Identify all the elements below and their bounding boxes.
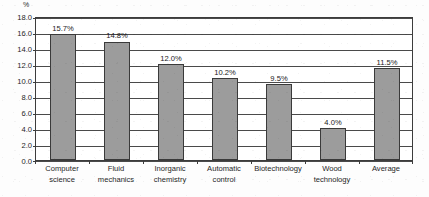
x-category-label: Inorganicchemistry bbox=[143, 164, 197, 185]
bar[interactable] bbox=[104, 42, 130, 160]
x-category-label: Computerscience bbox=[35, 164, 89, 185]
y-axis-tick-labels: 0.02.04.06.08.010.012.014.016.018.0 bbox=[6, 17, 32, 161]
x-category-label-line: chemistry bbox=[143, 175, 197, 186]
x-axis-category-labels: ComputerscienceFluidmechanicsInorganicch… bbox=[35, 164, 413, 196]
y-tick-label: 12.0 bbox=[6, 61, 32, 70]
x-category-label: Fluidmechanics bbox=[89, 164, 143, 185]
bar[interactable] bbox=[374, 68, 400, 160]
x-category-label-line: Computer bbox=[35, 164, 89, 175]
y-tick-label: 10.0 bbox=[6, 77, 32, 86]
bar[interactable] bbox=[320, 128, 346, 160]
x-category-label-line: control bbox=[197, 175, 251, 186]
x-category-label-line: Fluid bbox=[89, 164, 143, 175]
bars-layer: 15.7%14.8%12.0%10.2%9.5%4.0%11.5% bbox=[36, 18, 412, 160]
x-category-label-line: Average bbox=[359, 164, 413, 175]
y-tick-label: 6.0 bbox=[6, 109, 32, 118]
x-category-label-line: Automatic bbox=[197, 164, 251, 175]
y-tick-label: 14.0 bbox=[6, 45, 32, 54]
bar-slot: 11.5% bbox=[360, 18, 414, 160]
bar[interactable] bbox=[212, 78, 238, 160]
bar-value-label: 15.7% bbox=[52, 24, 74, 33]
y-tick-label: 18.0 bbox=[6, 13, 32, 22]
x-category-label: Average bbox=[359, 164, 413, 175]
y-tick-label: 16.0 bbox=[6, 29, 32, 38]
bar[interactable] bbox=[266, 84, 292, 160]
bar-slot: 12.0% bbox=[144, 18, 198, 160]
y-tick-label: 2.0 bbox=[6, 141, 32, 150]
y-tick-label: 8.0 bbox=[6, 93, 32, 102]
y-tick-label: 4.0 bbox=[6, 125, 32, 134]
bar-slot: 10.2% bbox=[198, 18, 252, 160]
x-category-label-line: Biotechnology bbox=[251, 164, 305, 175]
y-axis-unit-label: % bbox=[23, 1, 29, 8]
x-category-label-line: Wood bbox=[305, 164, 359, 175]
bar-slot: 15.7% bbox=[36, 18, 90, 160]
x-category-label-line: technology bbox=[305, 175, 359, 186]
x-category-label: Woodtechnology bbox=[305, 164, 359, 185]
bar-value-label: 12.0% bbox=[160, 54, 182, 63]
x-category-label: Biotechnology bbox=[251, 164, 305, 175]
x-category-label-line: mechanics bbox=[89, 175, 143, 186]
y-tick-label: 0.0 bbox=[6, 157, 32, 166]
bar-value-label: 14.8% bbox=[106, 31, 128, 40]
bar-slot: 14.8% bbox=[90, 18, 144, 160]
bar-value-label: 11.5% bbox=[377, 58, 398, 67]
x-axis-tick bbox=[412, 160, 413, 164]
gridline bbox=[36, 161, 412, 162]
bar[interactable] bbox=[158, 64, 184, 160]
bar-value-label: 4.0% bbox=[324, 118, 341, 127]
bar-slot: 4.0% bbox=[306, 18, 360, 160]
bar[interactable] bbox=[50, 34, 76, 160]
bar-slot: 9.5% bbox=[252, 18, 306, 160]
bar-value-label: 10.2% bbox=[214, 68, 236, 77]
x-category-label: Automaticcontrol bbox=[197, 164, 251, 185]
plot-area: 15.7%14.8%12.0%10.2%9.5%4.0%11.5% bbox=[35, 17, 413, 161]
bar-chart-screenshot: % 0.02.04.06.08.010.012.014.016.018.0 15… bbox=[0, 0, 429, 197]
bar-value-label: 9.5% bbox=[270, 74, 287, 83]
x-category-label-line: science bbox=[35, 175, 89, 186]
x-category-label-line: Inorganic bbox=[143, 164, 197, 175]
